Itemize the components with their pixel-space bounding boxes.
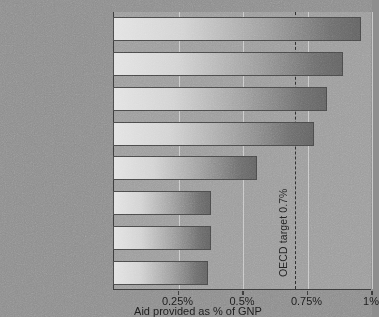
bar-row	[113, 156, 257, 180]
bar	[113, 226, 211, 250]
bar-row	[113, 226, 211, 250]
bar	[113, 122, 314, 146]
oecd-target-label: OECD target 0.7%	[277, 188, 289, 277]
bar	[113, 52, 343, 76]
bar	[113, 156, 257, 180]
bar	[113, 87, 327, 111]
bar	[113, 261, 208, 285]
bar-row	[113, 261, 208, 285]
gridline-1	[372, 12, 373, 289]
bar	[113, 191, 211, 215]
x-axis-title: Aid provided as % of GNP	[0, 305, 372, 317]
bar-row	[113, 191, 211, 215]
bar-row	[113, 87, 327, 111]
bar-row	[113, 17, 361, 41]
x-axis-title-text: Aid provided as % of GNP	[134, 305, 262, 317]
bar-row	[113, 122, 314, 146]
bar	[113, 17, 361, 41]
bar-row	[113, 52, 343, 76]
